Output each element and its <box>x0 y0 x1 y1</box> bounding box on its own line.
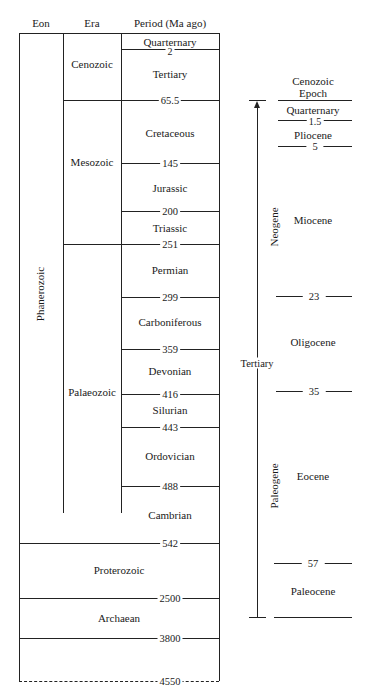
boundary-line <box>19 638 219 639</box>
boundary-label: 443 <box>160 422 180 433</box>
era-mesozoic: Mesozoic <box>63 156 121 168</box>
period-cretaceous: Cretaceous <box>121 127 219 139</box>
eon-archaean: Archaean <box>19 612 219 624</box>
period-quarternary: Quarternary <box>121 36 219 48</box>
tertiary-bottom-tick <box>249 617 266 618</box>
epoch-title-line1: Cenozoic <box>274 75 352 87</box>
period-silurian: Silurian <box>121 404 219 416</box>
period-devonian: Devonian <box>121 365 219 377</box>
epoch-boundary-label: 1.5 <box>307 116 324 127</box>
period-ordovician: Ordovician <box>121 450 219 462</box>
epoch-boundary-label: 23 <box>303 291 326 302</box>
tertiary-label: Tertiary <box>240 358 273 369</box>
epoch-line <box>274 617 352 618</box>
neogene-label: Neogene <box>268 205 280 249</box>
epoch-boundary-label: 35 <box>303 386 326 397</box>
epoch-pliocene: Pliocene <box>274 129 352 141</box>
header-period: Period (Ma ago) <box>121 17 219 29</box>
boundary-label: 65.5 <box>159 95 181 106</box>
boundary-label: 200 <box>160 206 180 217</box>
epoch-miocene: Miocene <box>274 214 352 226</box>
boundary-line <box>63 100 219 101</box>
boundary-line-dashed <box>19 681 219 682</box>
period-carboniferous: Carboniferous <box>121 316 219 328</box>
table-right-border <box>219 33 220 599</box>
period-jurassic: Jurassic <box>121 182 219 194</box>
epoch-boundary-label: 57 <box>302 558 325 569</box>
era-palaeozoic: Palaeozoic <box>63 386 121 398</box>
boundary-label: 488 <box>160 481 180 492</box>
epoch-oligocene: Oligocene <box>274 336 352 348</box>
boundary-line <box>19 598 219 599</box>
period-tertiary: Tertiary <box>121 68 219 80</box>
eon-proterozoic: Proterozoic <box>19 564 219 576</box>
header-eon: Eon <box>19 17 63 29</box>
boundary-label: 416 <box>160 389 180 400</box>
eon-phanerozoic: Phanerozoic <box>34 259 46 329</box>
epoch-line <box>278 100 352 101</box>
boundary-line <box>19 543 219 544</box>
boundary-label: 4550 <box>158 676 183 687</box>
header-era: Era <box>63 17 121 29</box>
period-triassic: Triassic <box>121 222 219 234</box>
boundary-label: 542 <box>160 538 180 549</box>
table-left-border <box>19 33 20 599</box>
boundary-label: 3800 <box>158 633 183 644</box>
era-cenozoic: Cenozoic <box>63 58 121 70</box>
boundary-label: 359 <box>160 344 180 355</box>
arrow-up-icon <box>254 101 260 108</box>
epoch-paleocene: Paleocene <box>274 585 352 597</box>
table-right-border-lower <box>219 599 220 681</box>
period-cambrian: Cambrian <box>121 509 219 521</box>
boundary-line <box>63 244 219 245</box>
boundary-label: 145 <box>160 158 180 169</box>
epoch-boundary-label: 5 <box>306 141 323 152</box>
boundary-label: 2500 <box>158 593 183 604</box>
epoch-title-line2: Epoch <box>274 87 352 99</box>
epoch-quarternary: Quarternary <box>274 104 352 116</box>
paleogene-label: Paleogene <box>268 460 280 512</box>
boundary-label: 251 <box>160 239 180 250</box>
table-top-border <box>19 33 219 34</box>
boundary-label: 299 <box>160 292 180 303</box>
era-column-divider <box>63 33 64 513</box>
epoch-eocene: Eocene <box>274 470 352 482</box>
period-permian: Permian <box>121 264 219 276</box>
